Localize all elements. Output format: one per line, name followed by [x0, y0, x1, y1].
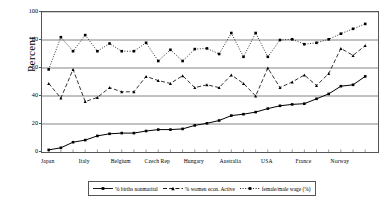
legend-swatch-solid: [93, 185, 113, 192]
x-axis-tick-norway: Norway: [317, 158, 363, 164]
legend-entry--births-nonmarital: % births nonmarital: [93, 185, 158, 192]
y-axis-tick-80: 80: [12, 36, 38, 42]
plot-svg: [42, 12, 378, 152]
plot-area: [41, 11, 379, 153]
legend-label: female/male wage (%): [262, 185, 311, 192]
y-axis-tick-40: 40: [12, 92, 38, 98]
y-axis-tick-20: 20: [12, 120, 38, 126]
legend-swatch-dotted: [240, 185, 260, 192]
legend-entry-female-male-wage-: female/male wage (%): [240, 185, 311, 192]
legend-swatch-dashed: [163, 185, 183, 192]
legend-label: % women econ. Active: [185, 185, 235, 192]
y-axis-tick-0: 0: [12, 148, 38, 154]
y-axis-title: Percent: [25, 11, 37, 97]
legend-label: % births nonmarital: [115, 185, 158, 192]
legend-entry--women-econ-active: % women econ. Active: [163, 185, 235, 192]
y-axis-tick-100: 100: [12, 8, 38, 14]
chart-legend: % births nonmarital% women econ. Activef…: [88, 181, 316, 196]
chart-root: Percent 020406080100 JapanItalyBelgiumCz…: [0, 0, 386, 206]
y-axis-tick-60: 60: [12, 64, 38, 70]
